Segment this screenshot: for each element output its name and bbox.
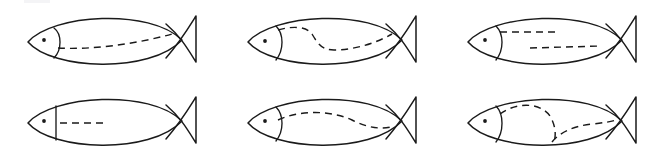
fish-diagram-grid (0, 0, 660, 159)
fish-diagram-canvas (0, 0, 660, 159)
fish-5-eye (263, 119, 267, 123)
paper-smudge (24, 0, 50, 3)
fish-6-eye (483, 119, 487, 123)
fish-1-eye (42, 38, 46, 42)
fish-4-eye (42, 119, 46, 123)
diagram-background (0, 0, 660, 159)
fish-3-eye (483, 38, 487, 42)
fish-2-eye (263, 39, 267, 43)
